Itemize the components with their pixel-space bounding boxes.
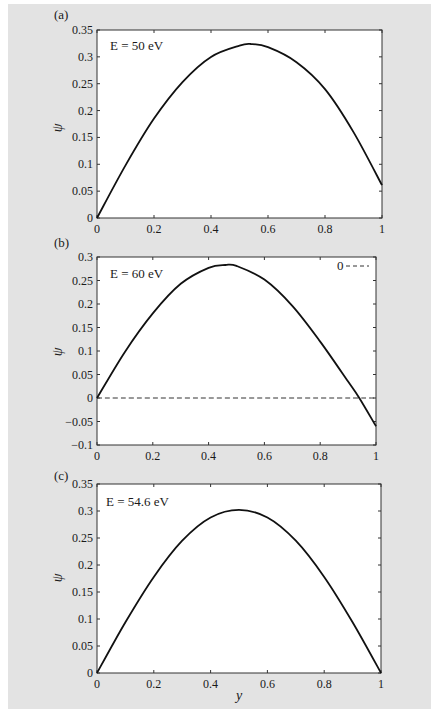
y-tick-label: 0.25 xyxy=(72,531,93,545)
y-tick-label: 0.05 xyxy=(72,184,93,198)
y-tick-label: 0.25 xyxy=(72,274,93,288)
y-tick-label: −0.1 xyxy=(71,438,93,452)
y-axis-label-a: ψ xyxy=(50,123,65,132)
x-tick-label: 0.4 xyxy=(201,449,216,463)
annotation-energy-a: E = 50 eV xyxy=(110,38,164,53)
y-tick-label: 0.2 xyxy=(78,558,93,572)
panel-label-b: (b) xyxy=(54,235,69,250)
y-tick-label: 0 xyxy=(87,391,93,405)
y-tick-label: 0.2 xyxy=(78,104,93,118)
plot-area-c xyxy=(97,484,381,673)
x-tick-label: 0.4 xyxy=(204,222,219,236)
x-tick-label: 1 xyxy=(379,222,385,236)
subplot-a: (a) 00.050.10.150.20.250.30.3500.20.40.6… xyxy=(50,7,385,236)
x-tick-label: 0 xyxy=(94,222,100,236)
y-tick-label: 0.05 xyxy=(72,368,93,382)
y-tick-label: 0.25 xyxy=(72,77,93,91)
y-tick-label: 0.2 xyxy=(78,297,93,311)
y-tick-label: 0.35 xyxy=(72,477,93,491)
x-tick-label: 0.4 xyxy=(203,677,218,691)
x-tick-label: 0.6 xyxy=(257,449,272,463)
panel-label-a: (a) xyxy=(54,7,68,22)
x-tick-label: 1 xyxy=(378,677,384,691)
x-tick-label: 0.6 xyxy=(261,222,276,236)
y-tick-label: 0.3 xyxy=(78,250,93,264)
y-tick-label: 0.1 xyxy=(78,612,93,626)
x-tick-label: 0.8 xyxy=(318,222,333,236)
subplot-c: (c) 00.050.10.150.20.250.30.3500.20.40.6… xyxy=(50,468,384,703)
y-tick-label: 0.3 xyxy=(78,50,93,64)
y-tick-label: 0.1 xyxy=(78,344,93,358)
y-tick-label: 0.1 xyxy=(78,157,93,171)
legend-label-zero: 0 xyxy=(337,258,344,273)
y-axis-label-c: ψ xyxy=(50,573,65,582)
figure: (a) 00.050.10.150.20.250.30.3500.20.40.6… xyxy=(0,0,440,720)
y-tick-label: 0.15 xyxy=(72,321,93,335)
x-tick-label: 0.2 xyxy=(145,449,160,463)
x-axis-label-c: y xyxy=(234,688,243,703)
y-axis-label-b: ψ xyxy=(50,347,65,356)
plot-area-a xyxy=(97,30,382,218)
panel-label-c: (c) xyxy=(54,468,68,483)
annotation-energy-b: E = 60 eV xyxy=(110,266,164,281)
x-tick-label: 0.2 xyxy=(146,677,161,691)
plot-area-b xyxy=(97,257,376,445)
y-tick-label: 0.3 xyxy=(78,504,93,518)
x-tick-label: 0.8 xyxy=(317,677,332,691)
x-tick-label: 1 xyxy=(373,449,379,463)
y-tick-label: 0 xyxy=(87,666,93,680)
y-tick-label: 0.05 xyxy=(72,639,93,653)
x-tick-label: 0 xyxy=(94,677,100,691)
y-tick-label: 0.15 xyxy=(72,585,93,599)
x-tick-label: 0.8 xyxy=(313,449,328,463)
x-tick-label: 0.6 xyxy=(260,677,275,691)
y-tick-label: −0.05 xyxy=(65,415,93,429)
x-tick-label: 0 xyxy=(94,449,100,463)
y-tick-label: 0.35 xyxy=(72,23,93,37)
y-tick-label: 0 xyxy=(87,211,93,225)
subplot-b: (b) −0.1−0.0500.050.10.150.20.250.300.20… xyxy=(50,235,379,463)
y-tick-label: 0.15 xyxy=(72,130,93,144)
x-tick-label: 0.2 xyxy=(147,222,162,236)
annotation-energy-c: E = 54.6 eV xyxy=(106,494,170,509)
